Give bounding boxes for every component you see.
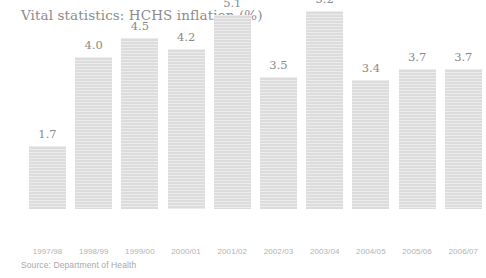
bar-group: 5.2	[306, 0, 343, 209]
bar-value-label: 3.5	[252, 58, 305, 72]
bar-value-label: 3.7	[437, 50, 486, 64]
bar-value-label: 5.1	[206, 0, 259, 10]
source-note: Source: Department of Health	[21, 260, 136, 270]
bar	[352, 80, 389, 209]
bar-group: 4.5	[121, 0, 158, 209]
x-axis-tick-label: 2000/01	[160, 247, 213, 256]
bar-value-label: 4.2	[160, 30, 213, 44]
bar	[168, 49, 205, 209]
bar-value-label: 4.0	[67, 38, 120, 52]
bar	[260, 77, 297, 210]
bar-group: 3.4	[352, 0, 389, 209]
bar	[306, 11, 343, 209]
bar-group: 4.2	[168, 0, 205, 209]
x-axis-tick-label: 2004/05	[344, 247, 397, 256]
bar-value-label: 1.7	[21, 127, 74, 141]
plot-area: 1.74.04.54.25.13.55.23.43.73.7	[0, 0, 476, 244]
bar-value-label: 3.4	[344, 61, 397, 75]
bar-group: 4.0	[75, 0, 112, 209]
x-axis-tick-label: 1998/99	[67, 247, 120, 256]
x-axis-tick-label: 2001/02	[206, 247, 259, 256]
x-axis-tick-label: 2003/04	[298, 247, 351, 256]
bar	[29, 146, 66, 209]
bar-value-label: 4.5	[113, 19, 166, 33]
bar	[214, 15, 251, 209]
bar	[121, 38, 158, 209]
bar-group: 5.1	[214, 0, 251, 209]
bar-group: 3.7	[399, 0, 436, 209]
bar-value-label: 3.7	[391, 50, 444, 64]
bar-group: 3.7	[445, 0, 482, 209]
bar-value-label: 5.2	[298, 0, 351, 6]
bar-group: 3.5	[260, 0, 297, 209]
bar-group: 1.7	[29, 0, 66, 209]
bar	[399, 69, 436, 209]
x-axis-tick-label: 2006/07	[437, 247, 486, 256]
bar	[445, 69, 482, 209]
x-axis-tick-label: 2002/03	[252, 247, 305, 256]
bar	[75, 57, 112, 209]
x-axis-tick-label: 1999/00	[113, 247, 166, 256]
x-axis-tick-label: 1997/98	[21, 247, 74, 256]
x-axis-tick-label: 2005/06	[391, 247, 444, 256]
